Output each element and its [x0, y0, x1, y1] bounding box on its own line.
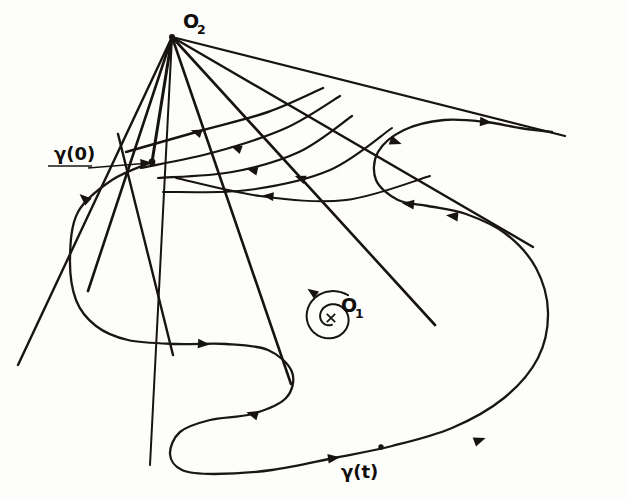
gamma-flow-curve: [70, 117, 552, 474]
label-o1-subscript: 1: [355, 306, 364, 321]
gamma-curve-path: [70, 120, 552, 474]
transversal-arc: [126, 88, 323, 152]
ray-line: [172, 37, 565, 136]
label-o2-subscript: 2: [197, 22, 206, 37]
label-gamma-zero: γ(0): [54, 143, 95, 164]
gamma-direction-arrow-icon: [198, 339, 210, 349]
gamma-direction-arrow-icon: [80, 194, 92, 206]
transversal-arc: [141, 96, 340, 168]
figure-canvas: O 2 O 1 γ(0) γ(t): [0, 0, 626, 500]
spiral-direction-arrow-icon: [307, 289, 319, 299]
gamma-t-point-marker: [378, 444, 383, 449]
o2-apex-marker: [169, 34, 175, 40]
gamma-direction-arrow-icon: [446, 212, 458, 222]
gamma-direction-arrow-icon: [327, 454, 340, 464]
label-gamma-t: γ(t): [341, 461, 378, 482]
diagram-svg: O 2 O 1 γ(0) γ(t): [0, 0, 626, 500]
gamma-zero-node-marker: [149, 159, 156, 166]
gamma-direction-arrow-icon: [473, 438, 486, 447]
arc-direction-arrow-icon: [231, 146, 243, 154]
ray-line: [172, 37, 533, 247]
o1-center-cross-icon: [327, 314, 335, 322]
ray-line: [18, 37, 172, 365]
ray-line: [172, 37, 291, 384]
